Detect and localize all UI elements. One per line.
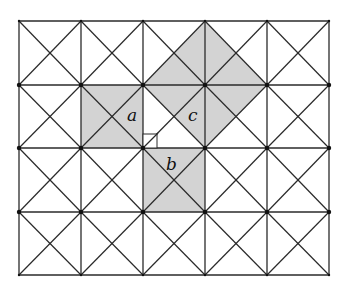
grid-vertex-dot (141, 83, 145, 87)
grid-vertex-dot (266, 20, 268, 22)
label-c: c (188, 105, 198, 125)
grid-vertex-dot (142, 274, 144, 276)
grid-vertex-dot (328, 20, 330, 22)
grid-vertex-dot (328, 274, 330, 276)
grid-vertex-dot (141, 146, 145, 150)
grid-vertex-dot (203, 210, 207, 214)
grid-vertex-dot (203, 146, 207, 150)
grid-vertex-dot (17, 146, 21, 150)
label-a: a (127, 105, 137, 125)
grid-vertex-dot (265, 210, 269, 214)
grid-vertex-dot (80, 274, 82, 276)
grid-vertex-dot (203, 83, 207, 87)
grid-vertex-dot (142, 20, 144, 22)
grid-vertex-dot (18, 274, 20, 276)
grid-vertex-dot (17, 83, 21, 87)
grid-vertex-dot (141, 210, 145, 214)
grid-vertex-dot (18, 20, 20, 22)
grid-vertex-dot (79, 210, 83, 214)
grid-vertex-dot (79, 83, 83, 87)
grid-vertex-dot (80, 20, 82, 22)
right-angle-marker (143, 133, 158, 148)
grid-vertex-dot (265, 83, 269, 87)
grid-vertex-dot (327, 210, 331, 214)
grid-vertex-dot (79, 146, 83, 150)
grid-vertex-dot (265, 146, 269, 150)
grid-vertex-dot (266, 274, 268, 276)
label-b: b (166, 154, 177, 174)
grid-vertex-dot (204, 20, 206, 22)
pythagorean-grid-diagram: a c b (0, 0, 348, 293)
grid-vertex-dot (327, 83, 331, 87)
grid-vertex-dot (327, 146, 331, 150)
grid-vertex-dot (204, 274, 206, 276)
grid-vertex-dot (17, 210, 21, 214)
